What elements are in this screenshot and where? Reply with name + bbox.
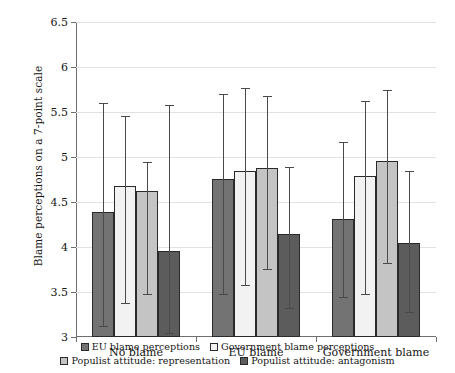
error-bar-cap-lower: [219, 294, 228, 295]
error-bar-cap-upper: [383, 90, 392, 91]
legend-swatch-icon: [81, 343, 89, 351]
legend-row: EU blame perceptionsGovernment blame per…: [0, 340, 455, 354]
error-bar-cap-upper: [143, 162, 152, 163]
legend-swatch-icon: [210, 343, 218, 351]
y-tick-label: 3.5: [51, 286, 69, 299]
y-tick-label: 4.5: [51, 196, 69, 209]
y-tick-mark: [71, 157, 76, 158]
error-bar-line: [267, 96, 268, 269]
error-bar-line: [147, 162, 148, 293]
y-axis-title: Blame perceptions on a 7-point scale: [32, 36, 44, 296]
error-bar-cap-lower: [165, 333, 174, 334]
error-bar-cap-lower: [339, 297, 348, 298]
y-tick-label: 6: [61, 61, 68, 74]
legend-item[interactable]: Government blame perceptions: [210, 340, 374, 354]
error-bar-cap-lower: [121, 303, 130, 304]
error-bar-cap-upper: [285, 167, 294, 168]
error-bar-line: [289, 167, 290, 308]
gridline: [76, 112, 436, 113]
error-bar-line: [223, 94, 224, 294]
error-bar-cap-lower: [383, 263, 392, 264]
error-bar-cap-lower: [263, 269, 272, 270]
error-bar-line: [103, 103, 104, 326]
y-tick-mark: [71, 202, 76, 203]
legend-row: Populist attitude: representationPopulis…: [0, 354, 455, 368]
error-bar-cap-upper: [241, 88, 250, 89]
y-tick-mark: [71, 247, 76, 248]
error-bar-line: [245, 88, 246, 285]
y-tick-mark: [71, 292, 76, 293]
gridline: [76, 157, 436, 158]
error-bar-line: [365, 101, 366, 294]
legend-item[interactable]: Populist attitude: antagonism: [240, 354, 394, 368]
error-bar-cap-upper: [219, 94, 228, 95]
error-bar-cap-upper: [339, 142, 348, 143]
legend-label: Populist attitude: representation: [71, 355, 230, 366]
legend-swatch-icon: [60, 357, 68, 365]
y-tick-mark: [71, 67, 76, 68]
legend-label: EU blame perceptions: [92, 341, 200, 352]
error-bar-cap-upper: [361, 101, 370, 102]
chart-legend: EU blame perceptionsGovernment blame per…: [0, 340, 455, 368]
error-bar-cap-upper: [165, 105, 174, 106]
error-bar-line: [387, 90, 388, 264]
error-bar-cap-lower: [241, 285, 250, 286]
y-tick-label: 5.5: [51, 106, 69, 119]
error-bar-line: [409, 171, 410, 312]
error-bar-cap-lower: [361, 294, 370, 295]
error-bar-cap-upper: [405, 171, 414, 172]
y-tick-label: 4: [61, 241, 68, 254]
legend-label: Government blame perceptions: [221, 341, 374, 352]
y-tick-label: 6.5: [51, 16, 69, 29]
legend-swatch-icon: [240, 357, 248, 365]
error-bar-cap-lower: [99, 326, 108, 327]
error-bar-line: [125, 116, 126, 303]
gridline: [76, 67, 436, 68]
gridline: [76, 22, 436, 23]
error-bar-cap-lower: [285, 308, 294, 309]
plot-area: 33.544.555.566.5 No blameEU blameGovernm…: [76, 22, 436, 337]
error-bar-cap-lower: [405, 312, 414, 313]
legend-label: Populist attitude: antagonism: [251, 355, 394, 366]
y-tick-mark: [71, 22, 76, 23]
legend-item[interactable]: Populist attitude: representation: [60, 354, 230, 368]
error-bar-cap-upper: [121, 116, 130, 117]
error-bar-line: [343, 142, 344, 298]
error-bar-cap-upper: [99, 103, 108, 104]
error-bar-cap-lower: [143, 294, 152, 295]
y-tick-mark: [71, 112, 76, 113]
error-bar-cap-upper: [263, 96, 272, 97]
error-bar-line: [169, 105, 170, 334]
legend-item[interactable]: EU blame perceptions: [81, 340, 200, 354]
y-tick-label: 5: [61, 151, 68, 164]
bar-chart-figure: Blame perceptions on a 7-point scale 33.…: [0, 0, 455, 373]
